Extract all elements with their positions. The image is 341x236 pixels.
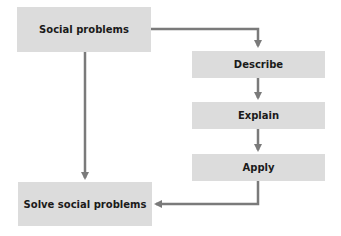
node-label: Apply bbox=[242, 162, 274, 173]
node-label: Describe bbox=[234, 59, 283, 70]
node-apply: Apply bbox=[192, 154, 325, 181]
node-social-problems: Social problems bbox=[17, 7, 151, 52]
node-solve-social-problems: Solve social problems bbox=[18, 182, 152, 226]
node-explain: Explain bbox=[192, 102, 325, 129]
node-label: Solve social problems bbox=[24, 199, 147, 210]
node-describe: Describe bbox=[192, 51, 325, 78]
node-label: Social problems bbox=[39, 24, 129, 35]
arrow-social-to-describe bbox=[151, 29, 258, 46]
node-label: Explain bbox=[238, 110, 279, 121]
arrow-apply-to-solve bbox=[156, 181, 258, 204]
